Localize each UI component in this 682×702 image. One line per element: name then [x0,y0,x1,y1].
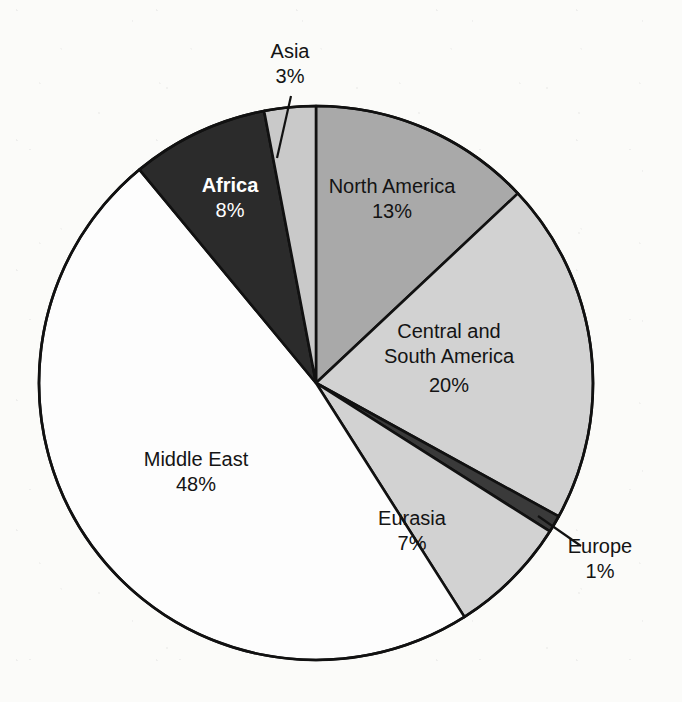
pie-label-asia: Asia [271,40,311,62]
pie-value-eurasia: 7% [398,532,427,554]
pie-value-asia: 3% [276,65,305,87]
pie-label-north-america: North America [329,175,457,197]
pie-slice-group [39,106,593,660]
pie-label-africa: Africa [202,174,260,196]
pie-value-europe: 1% [586,560,615,582]
pie-value-africa: 8% [216,199,245,221]
pie-chart: North America13%Central andSouth America… [0,0,682,702]
pie-label-central-and-south-america: Central and [397,320,500,342]
pie-value-north-america: 13% [372,200,412,222]
pie-value-central-and-south-america: 20% [429,374,469,396]
pie-value-middle-east: 48% [176,473,216,495]
pie-chart-svg: North America13%Central andSouth America… [0,0,682,702]
pie-label-europe: Europe [568,535,633,557]
pie-label-eurasia: Eurasia [378,507,447,529]
pie-label-central-and-south-america: South America [384,345,515,367]
pie-label-middle-east: Middle East [144,448,249,470]
